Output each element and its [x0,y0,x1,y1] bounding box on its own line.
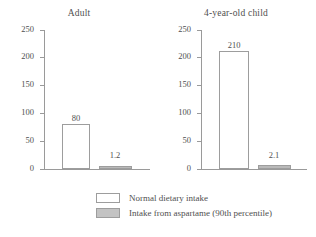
bar-aspartame-adult [99,166,132,169]
y-tick-label-200-child: 200 [178,51,191,61]
chart-panel-adult: Adult 0 50 100 150 200 250 80 [0,0,158,182]
legend-swatch-aspartame-icon [96,208,120,218]
chart-panel-child: 4-year-old child 0 50 100 150 200 250 [157,0,315,182]
y-tick-label-50-child: 50 [183,135,192,145]
y-tick-200-adult: 200 [40,57,44,58]
legend-item-normal: Normal dietary intake [96,191,316,204]
bar-value-normal-adult: 80 [58,113,94,123]
y-tick-label-150-child: 150 [178,79,191,89]
y-tick-label-50-adult: 50 [26,135,35,145]
plot-area-adult: 0 50 100 150 200 250 80 1.2 [44,30,150,170]
y-tick-label-150-adult: 150 [21,79,34,89]
chart-legend: Normal dietary intake Intake from aspart… [96,191,316,221]
y-tick-label-0-child: 0 [187,163,191,173]
y-axis-line-adult [44,30,45,170]
x-axis-line-adult [44,169,150,170]
plot-area-child: 0 50 100 150 200 250 210 2.1 [201,30,307,170]
y-tick-250-adult: 250 [40,30,44,31]
y-tick-250-child: 250 [197,30,201,31]
x-axis-line-child [201,169,307,170]
y-tick-label-200-adult: 200 [21,51,34,61]
y-tick-label-100-child: 100 [178,107,191,117]
y-tick-0-child: 0 [197,169,201,170]
y-tick-100-child: 100 [197,113,201,114]
bar-value-aspartame-adult: 1.2 [97,150,133,160]
panel-title-child: 4-year-old child [157,8,315,18]
bar-aspartame-child [258,165,291,169]
figure-canvas: Adult 0 50 100 150 200 250 80 [0,0,316,237]
y-tick-150-adult: 150 [40,85,44,86]
bar-value-normal-child: 210 [216,40,252,50]
y-tick-label-250-child: 250 [178,24,191,34]
bar-value-aspartame-child: 2.1 [256,150,292,160]
y-tick-100-adult: 100 [40,113,44,114]
legend-swatch-normal-icon [96,193,120,203]
legend-label-aspartame: Intake from aspartame (90th percentile) [129,208,272,218]
legend-item-aspartame: Intake from aspartame (90th percentile) [96,206,316,219]
y-tick-label-250-adult: 250 [21,24,34,34]
y-tick-150-child: 150 [197,85,201,86]
bar-normal-child [219,51,249,169]
legend-label-normal: Normal dietary intake [129,193,208,203]
y-tick-0-adult: 0 [40,169,44,170]
bar-normal-adult [62,124,90,169]
y-tick-200-child: 200 [197,57,201,58]
y-tick-label-0-adult: 0 [30,163,34,173]
y-tick-50-adult: 50 [40,141,44,142]
y-axis-line-child [201,30,202,170]
y-tick-50-child: 50 [197,141,201,142]
panel-title-adult: Adult [0,8,158,18]
y-tick-label-100-adult: 100 [21,107,34,117]
